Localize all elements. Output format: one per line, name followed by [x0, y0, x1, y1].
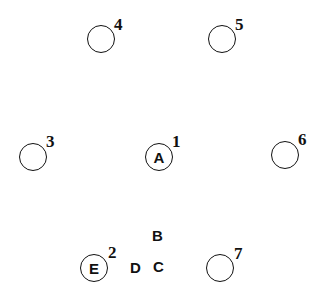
position-number-4: 4	[114, 16, 123, 33]
position-number-2: 2	[108, 244, 117, 261]
position-number-6: 6	[298, 131, 307, 148]
position-circle-2: E	[80, 254, 108, 282]
letter-b: B	[152, 228, 163, 243]
position-number-5: 5	[235, 16, 244, 33]
position-circle-6	[271, 141, 299, 169]
position-number-7: 7	[234, 245, 243, 262]
diagram-canvas: 4 5 3 A 1 6 E 2 7 B D C	[0, 0, 325, 301]
letter-d: D	[130, 260, 141, 275]
position-circle-5	[208, 25, 236, 53]
position-number-1: 1	[172, 133, 181, 150]
position-circle-7	[206, 254, 234, 282]
position-circle-3	[19, 143, 47, 171]
position-circle-1: A	[145, 143, 173, 171]
letter-c: C	[153, 259, 164, 274]
position-number-3: 3	[46, 133, 55, 150]
position-circle-4	[87, 25, 115, 53]
